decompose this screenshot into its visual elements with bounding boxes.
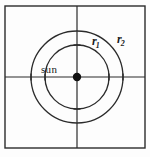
inner-radius-label: r1: [92, 35, 100, 50]
sun-center-dot: [73, 73, 81, 81]
diagram-canvas: [0, 0, 150, 157]
outer-radius-label: r2: [117, 33, 125, 48]
outer-radius-subscript: 2: [121, 39, 125, 48]
sun-label: sun: [41, 64, 57, 75]
orbit-diagram-figure: sun r1 r2: [0, 0, 150, 157]
inner-radius-subscript: 1: [96, 41, 100, 50]
